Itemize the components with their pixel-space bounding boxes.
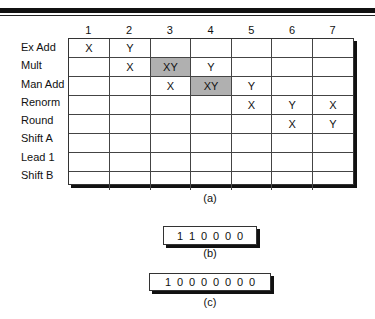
table-cell: Y [272,96,313,115]
table-cell [110,96,151,115]
table-cell: X [312,96,353,115]
table-cell [312,39,353,58]
table-cell [231,153,272,172]
bit: 0 [174,276,186,288]
table-cell [272,58,313,77]
row-label: Shift A [21,129,67,147]
table-cell [150,39,191,58]
table-cell [272,172,313,191]
table-cell: X [272,115,313,134]
table-cell [110,115,151,134]
table-cell [110,77,151,96]
bit: 1 [174,230,186,242]
table-cell [69,172,110,191]
table-cell [272,77,313,96]
bit: 0 [234,230,246,242]
table-cell: XY [150,58,191,77]
column-header: 7 [312,24,353,36]
table-cell [110,153,151,172]
table-cell [312,58,353,77]
table-cell [231,115,272,134]
column-header: 5 [231,24,272,36]
table-cell [272,153,313,172]
table-cell: X [231,96,272,115]
row-label: Man Add [21,75,67,93]
bit: 0 [198,276,210,288]
bit-vector-b: 110000 [163,226,257,245]
table-row [69,153,353,172]
bit: 1 [162,276,174,288]
bit: 0 [210,230,222,242]
caption-a: (a) [190,192,230,204]
table-cell [191,153,232,172]
bit: 0 [234,276,246,288]
table-cell [150,96,191,115]
row-label: Lead 1 [21,148,67,166]
table-cell [69,153,110,172]
table-cell [150,134,191,153]
bit: 0 [186,276,198,288]
top-rule-thin [0,15,375,16]
table-cell: X [69,39,110,58]
table-cell [312,153,353,172]
column-header: 2 [109,24,150,36]
column-header: 6 [272,24,313,36]
table-cell [231,39,272,58]
row-label: Ex Add [21,38,67,56]
table-row: XYX [69,96,353,115]
table-row: XY [69,115,353,134]
table-cell [231,172,272,191]
row-label: Renorm [21,93,67,111]
table-cell [69,96,110,115]
table-cell [110,134,151,153]
table-cell [312,134,353,153]
table-cell [150,115,191,134]
table-row [69,134,353,153]
column-header: 1 [68,24,109,36]
bit: 0 [222,230,234,242]
table-cell: Y [312,115,353,134]
table-cell: X [110,58,151,77]
table-cell [191,115,232,134]
table-cell [312,77,353,96]
table-cell [69,115,110,134]
table-row: XY [69,39,353,58]
table-cell [272,39,313,58]
table-row: XXYY [69,58,353,77]
table-cell [110,172,151,191]
bit: 0 [246,276,258,288]
bit: 0 [222,276,234,288]
table-cell: X [150,77,191,96]
table-cell [69,77,110,96]
table-cell: XY [191,77,232,96]
reservation-table: XYXXYYXXYYXYXXY [68,38,354,185]
column-header: 3 [149,24,190,36]
table-cell [312,172,353,191]
caption-b: (b) [190,247,230,259]
bit: 1 [186,230,198,242]
table-cell [191,172,232,191]
table-cell [191,39,232,58]
table-cell [150,153,191,172]
row-label: Shift B [21,166,67,184]
column-headers: 1 2 3 4 5 6 7 [68,24,353,36]
table-cell [150,172,191,191]
table-cell [191,134,232,153]
row-label: Mult [21,56,67,74]
bit: 0 [198,230,210,242]
bit: 0 [210,276,222,288]
bit-vector-c: 10000000 [149,273,271,291]
table-cell [231,58,272,77]
table-cell [69,58,110,77]
caption-c: (c) [190,296,230,308]
table-cell: Y [231,77,272,96]
table-cell [231,134,272,153]
table-cell: Y [110,39,151,58]
top-rule-thick [0,8,375,13]
table-cell [69,134,110,153]
table-cell [272,134,313,153]
row-labels: Ex Add Mult Man Add Renorm Round Shift A… [21,38,67,184]
table-cell [191,96,232,115]
row-label: Round [21,111,67,129]
table-cell: Y [191,58,232,77]
